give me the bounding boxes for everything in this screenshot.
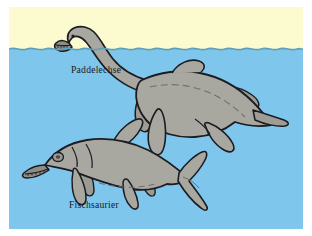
ichthyosaur-pupil xyxy=(56,155,60,159)
scene-svg: Paddelechse Fischsaurier xyxy=(9,7,303,229)
sky-band xyxy=(9,7,303,53)
scan-frame: Paddelechse Fischsaurier xyxy=(0,0,312,236)
illustration-canvas: Paddelechse Fischsaurier xyxy=(9,7,303,229)
plesiosaur-eye xyxy=(71,34,74,37)
label-paddelechse: Paddelechse xyxy=(71,64,121,75)
label-fischsaurier: Fischsaurier xyxy=(69,199,119,210)
